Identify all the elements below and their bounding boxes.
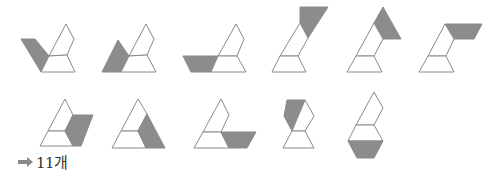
unshaded-piece [272,56,306,72]
right-arrow-icon [18,157,33,167]
figure-3 [183,24,246,72]
figure-7 [40,99,93,146]
answer-line: 11개 [18,151,68,172]
figure-6 [419,24,482,72]
unshaded-piece [49,24,74,56]
unshaded-piece [283,131,314,148]
figure-1 [21,24,75,72]
unshaded-piece [356,92,383,125]
figure-10 [283,100,314,148]
unshaded-piece [129,24,154,56]
figure-4 [272,7,328,72]
figure-2 [102,24,156,72]
figure-5 [347,7,401,72]
shape-figures-diagram [0,0,503,173]
figure-11 [348,92,383,158]
unshaded-piece [348,125,383,141]
figure-8 [112,99,165,148]
unshaded-piece [419,56,454,72]
unshaded-piece [218,24,244,56]
figure-9 [194,99,256,148]
shaded-piece [348,141,383,158]
unshaded-piece [203,99,229,132]
answer-count: 11개 [36,151,68,172]
unshaded-piece [347,56,382,72]
